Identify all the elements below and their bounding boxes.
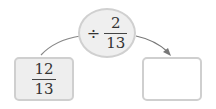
- input-denominator: 13: [32, 82, 55, 97]
- answer-box[interactable]: [142, 57, 202, 101]
- input-numerator: 12: [32, 62, 55, 77]
- input-fraction: 12 13: [32, 62, 55, 97]
- operation-circle: ÷ 2 13: [78, 8, 136, 58]
- operation-denominator: 13: [104, 36, 127, 51]
- division-sign: ÷: [87, 24, 100, 43]
- output-arrow: [136, 36, 168, 52]
- input-connector: [41, 36, 80, 55]
- operation-numerator: 2: [109, 16, 123, 31]
- operation-fraction: 2 13: [104, 16, 127, 51]
- input-box: 12 13: [14, 57, 74, 101]
